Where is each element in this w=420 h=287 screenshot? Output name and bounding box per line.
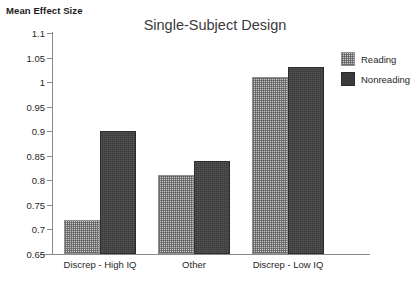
- y-tick-label: 0.8: [1, 175, 45, 186]
- y-tick-mark: [47, 131, 52, 132]
- y-tick-label: 0.9: [1, 126, 45, 137]
- y-tick-label: 0.7: [1, 224, 45, 235]
- y-tick-label: 0.65: [1, 249, 45, 260]
- y-tick-mark: [47, 82, 52, 83]
- y-tick-label: 1.05: [1, 52, 45, 63]
- bar-chart-figure: Mean Effect Size Single-Subject Design 0…: [0, 0, 420, 287]
- x-tick-label-discrep-low-iq: Discrep - Low IQ: [253, 259, 324, 270]
- y-tick-mark: [47, 180, 52, 181]
- legend-swatch-icon: [341, 52, 355, 66]
- legend-label: Nonreading: [361, 74, 410, 85]
- y-tick-mark: [47, 107, 52, 108]
- y-axis-title: Mean Effect Size: [6, 5, 83, 16]
- y-tick-label: 0.75: [1, 199, 45, 210]
- y-tick-label: 1: [1, 77, 45, 88]
- y-tick-mark: [47, 254, 52, 255]
- chart-title: Single-Subject Design: [0, 17, 420, 33]
- y-tick-label: 0.95: [1, 101, 45, 112]
- bar-discrep-high-iq-nonreading: [100, 131, 136, 254]
- y-tick-mark: [47, 205, 52, 206]
- bar-discrep-low-iq-reading: [252, 77, 288, 254]
- legend-item-reading[interactable]: Reading: [341, 52, 419, 66]
- y-tick-mark: [47, 58, 52, 59]
- chart-legend: ReadingNonreading: [341, 52, 419, 92]
- legend-item-nonreading[interactable]: Nonreading: [341, 72, 419, 86]
- x-tick-label-discrep-high-iq: Discrep - High IQ: [64, 259, 137, 270]
- y-tick-mark: [47, 33, 52, 34]
- y-tick-label: 1.1: [1, 28, 45, 39]
- plot-area: [53, 33, 335, 254]
- bar-other-reading: [158, 175, 194, 254]
- legend-swatch-icon: [341, 72, 355, 86]
- x-axis-line: [40, 254, 370, 255]
- y-tick-label: 0.85: [1, 150, 45, 161]
- y-tick-mark: [47, 156, 52, 157]
- bar-other-nonreading: [194, 161, 230, 254]
- legend-label: Reading: [361, 54, 396, 65]
- bar-discrep-low-iq-nonreading: [288, 67, 324, 254]
- y-tick-mark: [47, 229, 52, 230]
- x-tick-label-other: Other: [182, 259, 206, 270]
- bar-discrep-high-iq-reading: [64, 220, 100, 254]
